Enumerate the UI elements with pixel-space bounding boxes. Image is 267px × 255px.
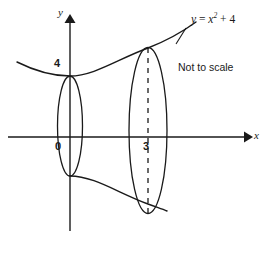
- revolution-lower-curve: [70, 176, 167, 211]
- y-axis-label: y: [58, 7, 63, 18]
- x-axis: [8, 132, 253, 143]
- diagram-svg: [0, 0, 267, 255]
- parabola-curve: [17, 22, 196, 76]
- equation-tail: + 4: [217, 13, 235, 25]
- not-to-scale-note: Not to scale: [178, 62, 233, 73]
- origin-label: 0: [55, 141, 61, 152]
- y-axis-arrowhead: [65, 14, 76, 23]
- y-intercept-label: 4: [54, 58, 60, 69]
- x-axis-arrowhead: [244, 132, 253, 143]
- x-bound-label: 3: [143, 141, 149, 152]
- figure-canvas: y x 4 0 3 y = x2 + 4 Not to scale: [0, 0, 267, 255]
- x-axis-label: x: [254, 130, 259, 141]
- equation-equals: =: [196, 13, 208, 25]
- equation-leader-line: [176, 28, 186, 44]
- y-axis: [65, 14, 76, 231]
- curve-equation-label: y = x2 + 4: [191, 14, 235, 26]
